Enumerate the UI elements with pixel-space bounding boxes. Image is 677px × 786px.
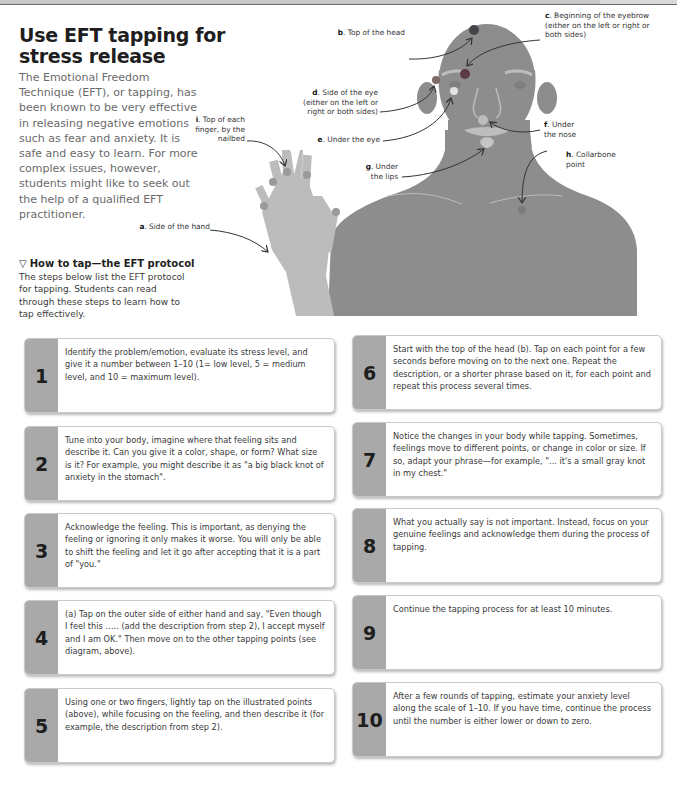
step-card-8: 8 What you actually say is not important… xyxy=(352,508,662,583)
step-card-4: 4 (a) Tap on the outer side of either ha… xyxy=(24,600,335,675)
step-number: 2 xyxy=(25,427,58,500)
step-text: Tune into your body, imagine where that … xyxy=(65,434,326,484)
step-number: 9 xyxy=(353,596,386,669)
step-number: 6 xyxy=(353,336,386,409)
step-text: (a) Tap on the outer side of either hand… xyxy=(65,608,326,658)
step-text: Notice the changes in your body while ta… xyxy=(393,430,653,480)
point-f-under-nose xyxy=(478,115,488,125)
step-text: Acknowledge the feeling. This is importa… xyxy=(65,521,326,571)
triangle-down-icon: ▽ xyxy=(19,258,27,269)
step-number: 10 xyxy=(353,683,386,756)
howto-heading: ▽How to tap—the EFT protocol xyxy=(19,258,219,269)
step-text: Start with the top of the head (b). Tap … xyxy=(393,343,653,393)
step-number: 1 xyxy=(25,339,58,412)
step-number: 4 xyxy=(25,601,58,674)
step-card-5: 5 Using one or two fingers, lightly tap … xyxy=(24,688,335,763)
step-text: What you actually say is not important. … xyxy=(393,516,653,553)
step-text: Identify the problem/emotion, evaluate i… xyxy=(65,346,326,383)
point-e-under-eye xyxy=(450,87,458,95)
step-text: After a few rounds of tapping, estimate … xyxy=(393,690,653,727)
howto-description: The steps below list the EFT protocol fo… xyxy=(19,271,194,321)
step-number: 3 xyxy=(25,514,58,587)
step-card-9: 9 Continue the tapping process for at le… xyxy=(352,595,662,670)
step-number: 5 xyxy=(25,689,58,762)
point-d-side-of-eye xyxy=(432,76,440,84)
point-b-top-of-head xyxy=(469,25,479,35)
label-i: i. Top of each finger, by the nailbed xyxy=(190,115,245,144)
step-card-2: 2 Tune into your body, imagine where tha… xyxy=(24,426,335,501)
step-card-10: 10 After a few rounds of tapping, estima… xyxy=(352,682,662,757)
step-text: Using one or two fingers, lightly tap on… xyxy=(65,696,326,733)
point-c-eyebrow xyxy=(460,69,470,79)
point-g-under-lips xyxy=(482,138,492,148)
label-c: c. Beginning of the eyebrow (either on t… xyxy=(545,11,663,40)
label-d: d. Side of the eye (either on the left o… xyxy=(298,88,378,117)
label-h: h. Collarbone point xyxy=(566,150,636,169)
step-text: Continue the tapping process for at leas… xyxy=(393,603,653,615)
point-h-collarbone xyxy=(518,206,526,214)
step-card-3: 3 Acknowledge the feeling. This is impor… xyxy=(24,513,335,588)
label-f: f. Under the nose xyxy=(544,120,584,139)
step-card-7: 7 Notice the changes in your body while … xyxy=(352,422,662,497)
step-number: 7 xyxy=(353,423,386,496)
step-number: 8 xyxy=(353,509,386,582)
step-card-1: 1 Identify the problem/emotion, evaluate… xyxy=(24,338,335,413)
label-g: g. Under the lips xyxy=(360,162,398,181)
label-b: b. Top of the head xyxy=(320,28,405,38)
hand-shape xyxy=(255,150,338,316)
step-card-6: 6 Start with the top of the head (b). Ta… xyxy=(352,335,662,410)
label-a: a. Side of the hand xyxy=(120,222,210,232)
label-e: e. Under the eye xyxy=(302,135,380,145)
